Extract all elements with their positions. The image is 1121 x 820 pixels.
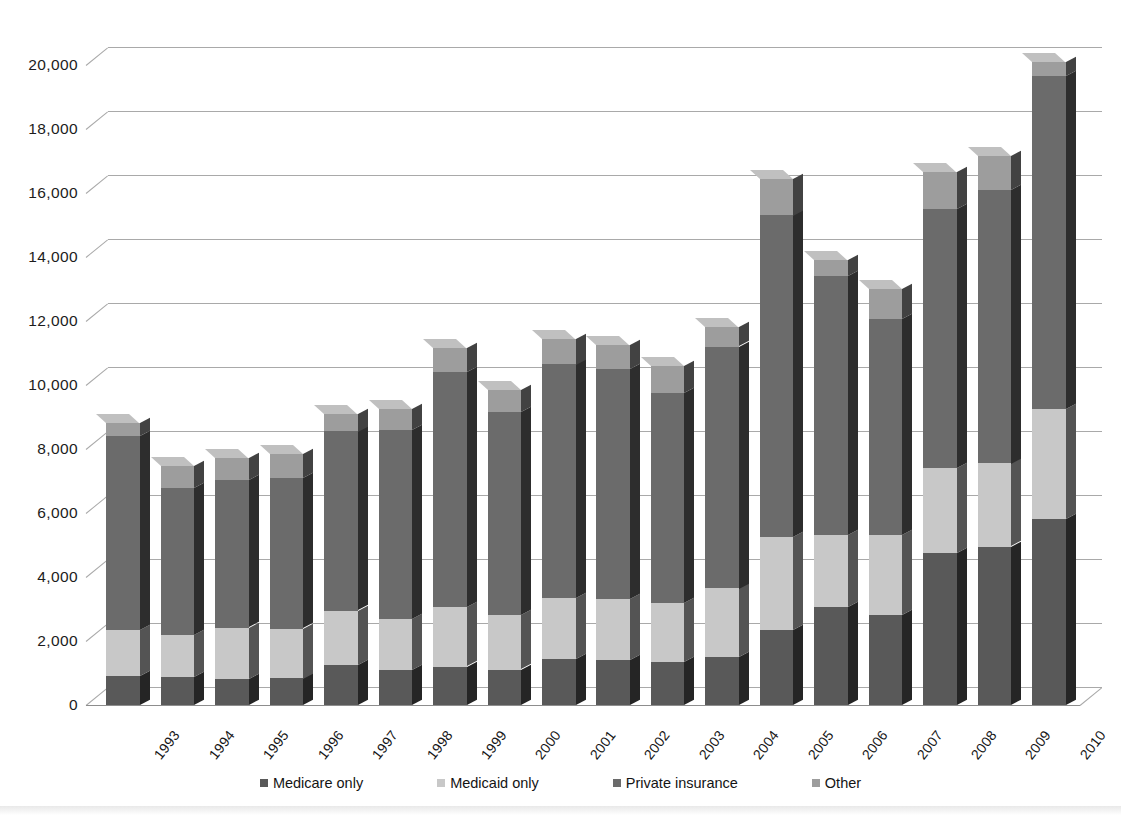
bar-segment-2005-series0[interactable] [760, 630, 793, 705]
legend-item-2[interactable]: Private insurance [613, 775, 738, 791]
bar-segment-2001-series0[interactable] [542, 659, 575, 705]
bar-segment-1995-series1[interactable] [215, 628, 248, 679]
bar-2001[interactable] [542, 339, 575, 705]
bar-segment-2006-series2[interactable] [814, 276, 847, 535]
bar-segment-2007-series1[interactable] [869, 535, 902, 615]
bar-segment-1995-series0[interactable] [215, 679, 248, 705]
bar-1996[interactable] [270, 454, 303, 705]
segment-face [814, 535, 847, 607]
legend-item-3[interactable]: Other [812, 775, 861, 791]
bar-segment-1993-series1[interactable] [106, 630, 139, 676]
bar-segment-1994-series3[interactable] [161, 466, 194, 488]
bar-2003[interactable] [651, 366, 684, 705]
bar-2009[interactable] [978, 156, 1011, 705]
bar-segment-1996-series2[interactable] [270, 478, 303, 628]
bar-segment-2008-series1[interactable] [923, 468, 956, 553]
bar-segment-2002-series0[interactable] [596, 660, 629, 705]
bar-segment-1999-series2[interactable] [433, 372, 466, 607]
bar-segment-1996-series1[interactable] [270, 629, 303, 679]
bar-segment-1997-series3[interactable] [324, 414, 357, 432]
bar-segment-2010-series3[interactable] [1032, 62, 1065, 76]
bar-segment-2006-series3[interactable] [814, 260, 847, 276]
bar-1994[interactable] [161, 466, 194, 705]
bar-segment-1996-series3[interactable] [270, 454, 303, 478]
bar-segment-2007-series2[interactable] [869, 319, 902, 535]
legend-item-0[interactable]: Medicare only [260, 775, 363, 791]
bar-segment-1994-series0[interactable] [161, 677, 194, 705]
bar-segment-2001-series2[interactable] [542, 364, 575, 598]
bar-segment-2009-series0[interactable] [978, 547, 1011, 705]
bar-2007[interactable] [869, 289, 902, 705]
segment-face [651, 603, 684, 662]
bar-segment-2000-series0[interactable] [488, 670, 521, 705]
bar-segment-2003-series3[interactable] [651, 366, 684, 393]
bar-segment-2000-series2[interactable] [488, 412, 521, 615]
bar-2004[interactable] [705, 327, 738, 705]
bar-segment-1998-series3[interactable] [379, 409, 412, 430]
bar-2005[interactable] [760, 179, 793, 705]
bar-segment-1999-series0[interactable] [433, 667, 466, 705]
bar-2000[interactable] [488, 390, 521, 705]
bar-segment-1994-series2[interactable] [161, 488, 194, 635]
bar-segment-2001-series1[interactable] [542, 598, 575, 659]
bar-segment-2007-series3[interactable] [869, 289, 902, 319]
bar-2002[interactable] [596, 345, 629, 705]
bar-segment-1997-series0[interactable] [324, 665, 357, 705]
bar-segment-1999-series1[interactable] [433, 607, 466, 666]
bar-segment-2003-series2[interactable] [651, 393, 684, 603]
segment-side [303, 473, 313, 629]
bar-segment-2002-series1[interactable] [596, 599, 629, 660]
bar-segment-2002-series3[interactable] [596, 345, 629, 369]
bar-segment-2000-series3[interactable] [488, 390, 521, 412]
bar-segment-2010-series2[interactable] [1032, 76, 1065, 409]
bar-1995[interactable] [215, 458, 248, 705]
bar-segment-2006-series1[interactable] [814, 535, 847, 607]
bar-1993[interactable] [106, 423, 139, 705]
segment-face [814, 276, 847, 535]
bar-segment-2009-series3[interactable] [978, 156, 1011, 190]
bar-1998[interactable] [379, 409, 412, 705]
bar-segment-2003-series0[interactable] [651, 662, 684, 705]
segment-face [923, 172, 956, 209]
bar-segment-2010-series1[interactable] [1032, 409, 1065, 519]
bar-segment-1997-series1[interactable] [324, 611, 357, 665]
bar-2010[interactable] [1032, 62, 1065, 705]
bar-segment-1993-series0[interactable] [106, 676, 139, 705]
bar-segment-2006-series0[interactable] [814, 607, 847, 705]
bar-1997[interactable] [324, 414, 357, 705]
legend-item-1[interactable]: Medicaid only [437, 775, 539, 791]
bar-segment-2005-series1[interactable] [760, 537, 793, 630]
bar-segment-2000-series1[interactable] [488, 615, 521, 669]
bar-segment-2001-series3[interactable] [542, 339, 575, 365]
bar-segment-2009-series1[interactable] [978, 463, 1011, 546]
bar-segment-1998-series2[interactable] [379, 430, 412, 619]
bar-2008[interactable] [923, 172, 956, 705]
bar-segment-2008-series2[interactable] [923, 209, 956, 468]
bar-2006[interactable] [814, 260, 847, 705]
bar-1999[interactable] [433, 348, 466, 705]
bar-segment-2010-series0[interactable] [1032, 519, 1065, 705]
bar-segment-2007-series0[interactable] [869, 615, 902, 705]
bar-segment-1995-series3[interactable] [215, 458, 248, 480]
bar-segment-2005-series2[interactable] [760, 215, 793, 537]
bar-segment-1999-series3[interactable] [433, 348, 466, 372]
bar-segment-2004-series2[interactable] [705, 347, 738, 589]
bar-segment-2004-series1[interactable] [705, 588, 738, 657]
bar-segment-2004-series0[interactable] [705, 657, 738, 705]
bar-segment-2003-series1[interactable] [651, 603, 684, 662]
bar-segment-1998-series1[interactable] [379, 619, 412, 670]
bar-segment-1994-series1[interactable] [161, 635, 194, 677]
bar-segment-1997-series2[interactable] [324, 431, 357, 610]
bar-segment-1996-series0[interactable] [270, 678, 303, 705]
bar-segment-2002-series2[interactable] [596, 369, 629, 599]
segment-face [596, 345, 629, 369]
bar-segment-2008-series3[interactable] [923, 172, 956, 209]
bar-segment-2008-series0[interactable] [923, 553, 956, 705]
bar-segment-1993-series3[interactable] [106, 423, 139, 436]
bar-segment-2004-series3[interactable] [705, 327, 738, 346]
bar-segment-2005-series3[interactable] [760, 179, 793, 216]
bar-segment-1998-series0[interactable] [379, 670, 412, 705]
bar-segment-1993-series2[interactable] [106, 436, 139, 630]
bar-segment-2009-series2[interactable] [978, 190, 1011, 464]
bar-segment-1995-series2[interactable] [215, 480, 248, 627]
